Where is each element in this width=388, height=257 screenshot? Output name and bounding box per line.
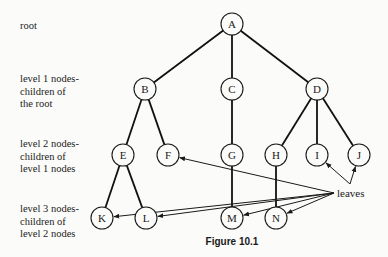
tree-edges [105,31,353,208]
node-label: B [141,83,148,95]
node-B: B [134,78,156,100]
node-D: D [306,78,328,100]
node-M: M [221,207,243,229]
node-C: C [221,78,243,100]
node-label: I [315,149,319,161]
node-N: N [265,207,287,229]
edge-E-K [105,165,119,207]
leaf-arrow-J [350,166,355,184]
leaves-label: leaves [337,187,364,199]
node-label: F [165,149,171,161]
leaf-arrow-I [326,163,350,184]
edge-A-B [154,31,223,83]
tree-diagram: ABCDEFGHIJKLMN leaves [0,0,388,257]
figure-caption: Figure 10.1 [0,236,388,247]
edge-E-L [127,165,142,207]
edge-D-J [323,98,353,145]
node-label: M [227,212,237,224]
leaf-arrow-M [244,193,334,215]
node-A: A [221,13,243,35]
edge-B-E [126,99,141,144]
edge-A-D [241,31,309,83]
edge-B-F [149,99,165,144]
node-I: I [306,144,328,166]
node-F: F [157,144,179,166]
node-label: H [272,149,280,161]
node-label: A [228,18,236,30]
node-label: D [313,83,321,95]
node-G: G [221,144,243,166]
node-K: K [91,207,113,229]
node-L: L [135,207,157,229]
node-H: H [265,144,287,166]
node-label: E [120,149,127,161]
node-J: J [348,144,370,166]
node-E: E [112,144,134,166]
node-label: K [98,212,106,224]
node-label: L [143,212,150,224]
node-label: J [357,149,362,161]
edge-D-H [282,98,311,145]
tree-nodes: ABCDEFGHIJKLMN [91,13,370,229]
node-label: G [228,149,236,161]
node-label: C [228,83,235,95]
node-label: N [272,212,280,224]
